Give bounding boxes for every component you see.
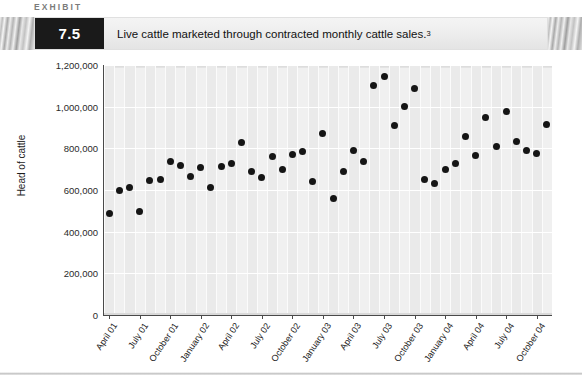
horizontal-gridline bbox=[104, 190, 552, 191]
x-axis-tick-mark bbox=[140, 315, 141, 319]
plot-area bbox=[104, 65, 552, 315]
exhibit-title-bar: 7.5 Live cattle marketed through contrac… bbox=[34, 17, 548, 50]
x-axis-tick-mark bbox=[323, 315, 324, 319]
x-axis-tick-mark bbox=[109, 315, 110, 319]
y-axis-tick-label: 200,000 bbox=[64, 268, 98, 279]
data-point bbox=[157, 176, 164, 183]
y-axis-tick-label: 600,000 bbox=[64, 185, 98, 196]
data-point bbox=[360, 158, 367, 165]
data-point bbox=[543, 121, 550, 128]
x-axis-tick-mark bbox=[292, 315, 293, 319]
horizontal-gridline bbox=[104, 107, 552, 108]
data-point bbox=[299, 148, 306, 155]
data-point bbox=[462, 133, 469, 140]
data-point bbox=[340, 168, 347, 175]
data-point bbox=[391, 122, 398, 129]
x-axis-tick-mark bbox=[353, 315, 354, 319]
data-point bbox=[401, 103, 408, 110]
data-point bbox=[136, 208, 143, 215]
x-axis-tick-mark bbox=[415, 315, 416, 319]
data-point bbox=[258, 174, 265, 181]
data-point bbox=[116, 187, 123, 194]
y-axis-tick-labels: 1,200,0001,000,000800,000600,000400,0002… bbox=[0, 56, 98, 356]
y-axis-tick-label: 0 bbox=[93, 310, 98, 321]
decorative-corner-art-right bbox=[548, 17, 582, 50]
x-axis-tick-mark bbox=[445, 315, 446, 319]
x-axis-tick-mark bbox=[262, 315, 263, 319]
data-point bbox=[523, 147, 530, 154]
data-point bbox=[330, 195, 337, 202]
data-point bbox=[289, 151, 296, 158]
x-axis-tick-mark bbox=[476, 315, 477, 319]
exhibit-number-badge: 7.5 bbox=[35, 18, 104, 49]
data-point bbox=[442, 166, 449, 173]
y-axis-line bbox=[103, 65, 104, 316]
horizontal-gridline bbox=[104, 148, 552, 149]
data-point bbox=[482, 114, 489, 121]
scatter-chart: Head of cattle 1,200,0001,000,000800,000… bbox=[0, 56, 582, 356]
decorative-corner-art-left bbox=[0, 17, 34, 50]
data-point bbox=[177, 162, 184, 169]
data-point bbox=[279, 166, 286, 173]
y-axis-tick-label: 1,000,000 bbox=[56, 101, 98, 112]
exhibit-caption-text: Live cattle marketed through contracted … bbox=[117, 28, 426, 40]
data-point bbox=[421, 176, 428, 183]
exhibit-caption: Live cattle marketed through contracted … bbox=[117, 18, 431, 49]
x-axis-tick-mark bbox=[170, 315, 171, 319]
x-axis-tick-mark bbox=[506, 315, 507, 319]
x-axis-tick-mark bbox=[537, 315, 538, 319]
x-axis-tick-mark bbox=[231, 315, 232, 319]
horizontal-gridline bbox=[104, 232, 552, 233]
data-point bbox=[269, 153, 276, 160]
data-point bbox=[493, 143, 500, 150]
data-point bbox=[248, 168, 255, 175]
exhibit-header: EXHIBIT 7.5 Live cattle marketed through… bbox=[0, 0, 582, 56]
y-axis-tick-label: 1,200,000 bbox=[56, 60, 98, 71]
data-point bbox=[381, 73, 388, 80]
x-axis-tick-mark bbox=[201, 315, 202, 319]
x-axis-tick-mark bbox=[384, 315, 385, 319]
data-point bbox=[218, 163, 225, 170]
data-point bbox=[238, 139, 245, 146]
y-axis-tick-label: 400,000 bbox=[64, 226, 98, 237]
data-point bbox=[513, 138, 520, 145]
exhibit-kicker-label: EXHIBIT bbox=[34, 2, 82, 12]
y-axis-tick-label: 800,000 bbox=[64, 143, 98, 154]
data-point bbox=[187, 173, 194, 180]
horizontal-gridline bbox=[104, 65, 552, 66]
data-point bbox=[503, 108, 510, 115]
page-bottom-rule bbox=[0, 372, 582, 375]
data-point bbox=[197, 164, 204, 171]
data-point bbox=[319, 130, 326, 137]
horizontal-gridline bbox=[104, 273, 552, 274]
data-point bbox=[350, 147, 357, 154]
